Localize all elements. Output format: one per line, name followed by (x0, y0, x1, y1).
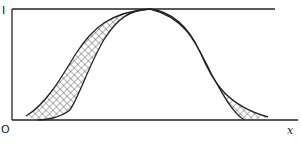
y-max-label: I (2, 4, 5, 17)
band-diagram: I O x (0, 0, 301, 144)
x-axis-label: x (287, 124, 294, 137)
origin-label: O (1, 123, 10, 136)
hatched-band-right (150, 9, 268, 120)
hatched-band-left (26, 9, 150, 120)
